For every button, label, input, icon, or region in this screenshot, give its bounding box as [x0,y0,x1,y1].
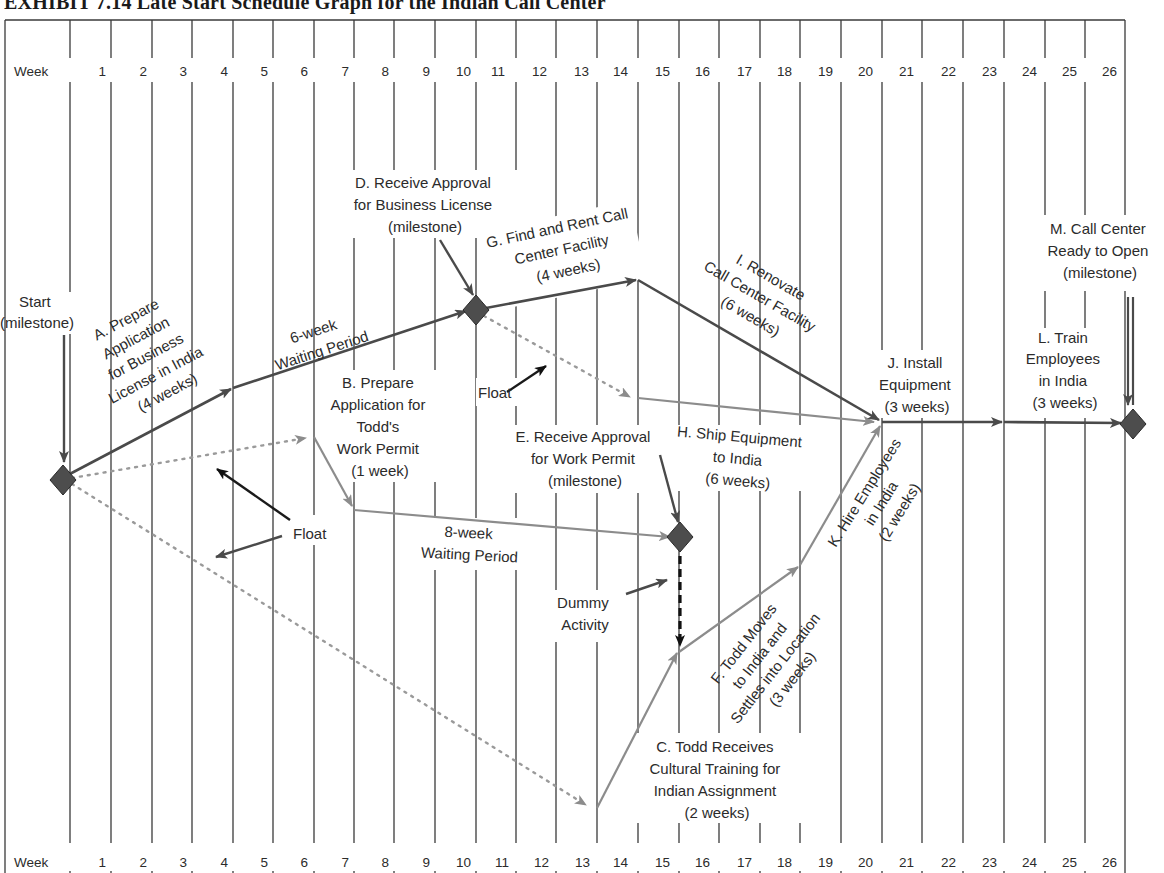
week-8: 8 [381,64,389,79]
week-20: 20 [858,64,873,79]
week-footer-11: 11 [495,855,509,870]
milestone-m-diamond [1120,409,1146,439]
week-footer-13: 13 [575,855,590,870]
week-12: 12 [532,64,547,79]
week-10: 10 [456,64,471,79]
week-3: 3 [179,64,187,79]
activity-a-label: A. Prepare Application for Business Lice… [76,285,219,425]
week-15: 15 [655,64,670,79]
week-17: 17 [737,64,752,79]
week-footer-9: 9 [422,855,430,870]
week-footer-3: 3 [179,855,187,870]
activity-f-label: F. Todd Moves to India and Settles into … [695,582,841,739]
week-13: 13 [574,64,589,79]
week-footer-12: 12 [534,855,549,870]
week-1: 1 [98,64,106,79]
week-5: 5 [260,64,268,79]
milestone-diamonds [50,295,1146,552]
week-footer-8: 8 [381,855,389,870]
float-label-2: Float [478,384,512,401]
week-footer-21: 21 [899,855,914,870]
activity-l-arrow [1004,422,1121,423]
activity-i-label: I. Renovate Call Center Facility (6 week… [690,238,833,356]
milestone-d-diamond [463,295,489,325]
week-23: 23 [982,64,997,79]
week-footer-14: 14 [613,855,629,870]
week-6: 6 [300,64,308,79]
activity-h-arrow [638,398,874,422]
week-4: 4 [220,64,228,79]
week-header-label: Week [14,64,49,79]
week-footer-15: 15 [655,855,670,870]
week-9: 9 [422,64,430,79]
week-24: 24 [1022,64,1038,79]
week-footer-16: 16 [695,855,710,870]
week-22: 22 [941,64,956,79]
week-footer-7: 7 [341,855,349,870]
week-footer-23: 23 [982,855,997,870]
float-pointer-2 [216,536,282,557]
week-footer-26: 26 [1102,855,1117,870]
pointer-arrows [64,240,1133,594]
week-footer-17: 17 [737,855,752,870]
week-footer-24: 24 [1022,855,1038,870]
week-footer-2: 2 [139,855,147,870]
week-19: 19 [818,64,833,79]
wait6-label: 6-week Waiting Period [266,307,370,373]
week-11: 11 [491,64,505,79]
d-pointer [440,240,473,295]
activity-j-label: J. Install Equipment (3 weeks) [879,354,955,415]
week-footer-25: 25 [1062,855,1077,870]
week-footer-22: 22 [941,855,956,870]
week-footer-6: 6 [300,855,308,870]
week-7: 7 [341,64,349,79]
week-footer-18: 18 [777,855,792,870]
week-footer-10: 10 [456,855,471,870]
week-footer-1: 1 [98,855,106,870]
week-26: 26 [1102,64,1117,79]
week-footer-4: 4 [220,855,228,870]
week-21: 21 [899,64,914,79]
week-18: 18 [777,64,792,79]
dummy-pointer [626,580,667,594]
float-pointer-1 [217,469,290,520]
week-16: 16 [695,64,710,79]
week-2: 2 [139,64,147,79]
week-footer-19: 19 [818,855,833,870]
week-footer-5: 5 [260,855,268,870]
float-label-1: Float [293,525,327,542]
week-footer-label: Week [14,855,49,870]
milestone-e-diamond [667,522,693,552]
week-footer-20: 20 [858,855,873,870]
milestone-m-label: M. Call Center Ready to Open (milestone) [1047,220,1152,281]
float-dotted-b [72,438,306,478]
week-25: 25 [1062,64,1077,79]
milestone-start-diamond [50,465,76,495]
week-14: 14 [613,64,629,79]
